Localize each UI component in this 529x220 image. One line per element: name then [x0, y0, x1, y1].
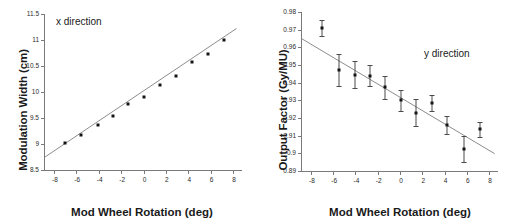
plot-inner-left: 8.599.51010.51111.5-8-6-4-202468 [45, 14, 242, 170]
y-tick-1: 0.96 [298, 47, 302, 48]
y-tick-label-1: 0.91 [283, 132, 296, 139]
x-tick-label-1: -4 [354, 177, 360, 184]
x-tick-label-1: 4 [444, 177, 448, 184]
data-point [64, 141, 67, 144]
annotation-x-direction: x direction [56, 16, 102, 27]
data-point [223, 39, 226, 42]
x-tick-label-0: -2 [119, 176, 125, 183]
data-point [431, 101, 434, 104]
x-tick-label-0: 8 [232, 176, 236, 183]
x-tick-0: -2 [121, 170, 122, 174]
y-tick-label-1: 0.9 [287, 149, 296, 156]
x-tick-0: -6 [76, 170, 77, 174]
y-tick-0: 10 [41, 92, 45, 93]
x-tick-1: 2 [422, 171, 423, 175]
x-tick-1: 8 [489, 171, 490, 175]
y-tick-1: 0.93 [298, 100, 302, 101]
error-bar-cap [352, 61, 357, 62]
x-tick-label-0: 2 [165, 176, 169, 183]
error-bar-cap [368, 65, 373, 66]
data-point [415, 111, 418, 114]
x-tick-1: -6 [333, 171, 334, 175]
y-tick-1: 0.95 [298, 65, 302, 66]
y-tick-0: 10.5 [41, 66, 45, 67]
error-bar-cap [336, 86, 341, 87]
x-tick-label-0: -6 [74, 176, 80, 183]
y-tick-0: 9 [41, 144, 45, 145]
error-bar-cap [336, 54, 341, 55]
x-tick-1: -8 [311, 171, 312, 175]
x-tick-label-0: 4 [187, 176, 191, 183]
error-bar-cap [414, 126, 419, 127]
data-point [159, 84, 162, 87]
error-bar-cap [398, 111, 403, 112]
data-point [96, 124, 99, 127]
x-tick-1: -4 [355, 171, 356, 175]
error-bar-cap [478, 137, 483, 138]
fit-line-left [45, 14, 242, 170]
y-tick-label-1: 0.95 [283, 61, 296, 68]
data-point [446, 124, 449, 127]
y-tick-label-1: 0.89 [283, 167, 296, 174]
x-tick-1: 4 [445, 171, 446, 175]
x-tick-1: 6 [467, 171, 468, 175]
error-bar-cap [352, 88, 357, 89]
plot-inner-right: 0.890.90.910.920.930.940.950.960.970.98-… [302, 12, 498, 171]
error-bar-cap [462, 162, 467, 163]
x-tick-0: -8 [54, 170, 55, 174]
y-tick-1: 0.91 [298, 136, 302, 137]
plot-area-right: 0.890.90.910.920.930.940.950.960.970.98-… [301, 12, 498, 172]
error-bar-cap [462, 136, 467, 137]
x-tick-label-1: -8 [309, 177, 315, 184]
y-tick-1: 0.97 [298, 30, 302, 31]
x-tick-1: -2 [378, 171, 379, 175]
y-tick-label-0: 9 [35, 140, 39, 147]
x-tick-label-0: 0 [143, 176, 147, 183]
y-tick-label-1: 0.92 [283, 114, 296, 121]
x-tick-0: 2 [166, 170, 167, 174]
y-tick-label-0: 9.5 [30, 114, 39, 121]
panel-x-direction: Modulation Width (cm) 8.599.51010.51111.… [0, 0, 264, 220]
data-point [190, 61, 193, 64]
y-tick-0: 9.5 [41, 118, 45, 119]
error-bar-cap [368, 86, 373, 87]
y-tick-label-0: 11 [32, 36, 39, 43]
data-point [207, 53, 210, 56]
x-tick-0: 0 [144, 170, 145, 174]
data-point [321, 26, 324, 29]
error-bar-cap [430, 111, 435, 112]
x-tick-label-0: -4 [97, 176, 103, 183]
x-tick-label-1: 6 [466, 177, 470, 184]
data-point [369, 74, 372, 77]
data-point [79, 133, 82, 136]
x-tick-0: -4 [99, 170, 100, 174]
y-tick-1: 0.9 [298, 153, 302, 154]
data-point [174, 74, 177, 77]
x-tick-label-1: 2 [421, 177, 425, 184]
y-tick-0: 11 [41, 40, 45, 41]
x-tick-label-1: 0 [399, 177, 403, 184]
data-point [463, 147, 466, 150]
x-tick-1: 0 [400, 171, 401, 175]
x-tick-label-0: 6 [210, 176, 214, 183]
x-axis-title-right: Mod Wheel Rotation (deg) [300, 206, 500, 218]
error-bar-cap [382, 99, 387, 100]
plot-area-left: 8.599.51010.51111.5-8-6-4-202468 [44, 14, 242, 171]
y-tick-label-1: 0.97 [283, 26, 296, 33]
y-tick-0: 8.5 [41, 170, 45, 171]
error-bar-cap [320, 20, 325, 21]
data-point [127, 102, 130, 105]
data-point [337, 69, 340, 72]
y-tick-label-0: 10 [32, 88, 39, 95]
data-point [353, 73, 356, 76]
y-axis-title-right: Output Factor (Gy/MU) [274, 0, 292, 220]
y-axis-title-left: Modulation Width (cm) [14, 0, 32, 220]
y-tick-label-1: 0.94 [283, 79, 296, 86]
x-tick-label-0: -8 [52, 176, 58, 183]
data-point [479, 128, 482, 131]
y-tick-label-0: 11.5 [27, 10, 39, 17]
x-tick-0: 8 [233, 170, 234, 174]
x-tick-0: 4 [188, 170, 189, 174]
error-bar-cap [445, 116, 450, 117]
x-tick-label-1: -6 [331, 177, 337, 184]
